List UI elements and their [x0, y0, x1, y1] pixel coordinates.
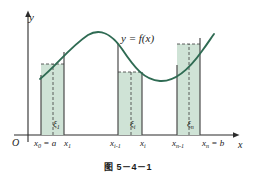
riemann-bar-i-fill	[118, 72, 142, 135]
figure-caption: 图 5－4－1	[0, 160, 256, 173]
riemann-sum-figure: y x O y = f(x) x0 = a x1 xi-1 xi xn-1 xn…	[0, 0, 256, 177]
plot-canvas	[0, 0, 256, 177]
